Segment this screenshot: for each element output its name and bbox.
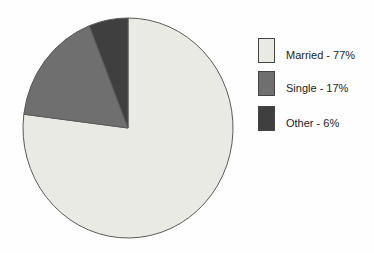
legend-swatch-married [258, 38, 275, 63]
legend-label-married: Married - 77% [286, 49, 355, 63]
pie-chart-figure: Married - 77% Single - 17% Other - 6% [0, 0, 374, 253]
legend-item-other: Other - 6% [258, 106, 339, 131]
legend-swatch-other [258, 106, 275, 131]
legend-label-other: Other - 6% [286, 117, 339, 131]
legend-swatch-single [258, 71, 275, 96]
legend-label-single: Single - 17% [286, 82, 348, 96]
legend-item-married: Married - 77% [258, 38, 355, 63]
legend-item-single: Single - 17% [258, 71, 348, 96]
